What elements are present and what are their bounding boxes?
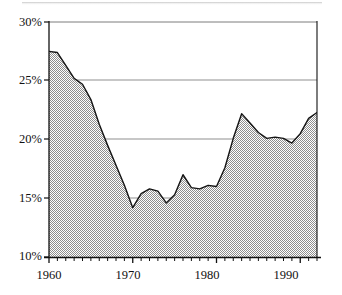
x-tick-label-1970: 1970	[105, 268, 151, 283]
data-area	[49, 51, 317, 257]
y-tick-label-15: 15%	[2, 191, 42, 206]
area-chart-plot	[0, 0, 342, 295]
y-tick-label-30: 30%	[2, 15, 42, 30]
x-tick-label-1980: 1980	[184, 268, 230, 283]
x-tick-label-1960: 1960	[26, 268, 72, 283]
y-tick-label-25: 25%	[2, 73, 42, 88]
chart-figure: 30% 25% 20% 15% 10% 1960 1970 1980 1990	[0, 0, 342, 295]
x-tick-label-1990: 1990	[263, 268, 309, 283]
area-fill-path	[49, 51, 317, 257]
y-tick-label-20: 20%	[2, 132, 42, 147]
y-tick-label-10: 10%	[2, 249, 42, 264]
